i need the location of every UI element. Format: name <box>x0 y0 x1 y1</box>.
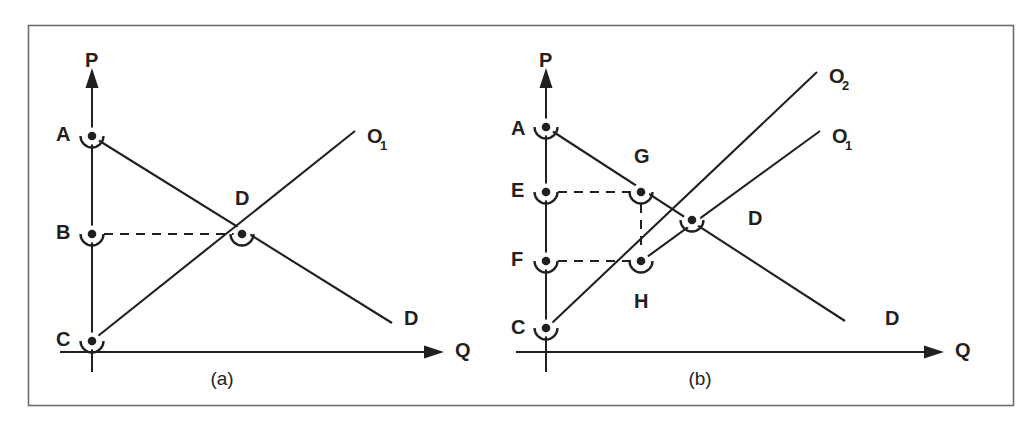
panel-b-point-a: A <box>511 117 558 139</box>
panel-a-demand-curve-d-label: D <box>404 307 418 329</box>
panel-a-point-d-label: D <box>235 187 249 209</box>
panel-b-axis-label-p: P <box>539 49 552 71</box>
panel-a-point-a: A <box>56 123 104 147</box>
panel-b-point-c-label: C <box>511 316 525 338</box>
panel-b-supply-curve-o2-subscript: 2 <box>842 78 849 93</box>
panel-b-point-d: D <box>681 207 763 231</box>
panel-a-point-a-dot <box>88 132 97 141</box>
panel-b-point-c: C <box>511 316 558 339</box>
panel-b-point-e-label: E <box>511 179 524 201</box>
panel-b-supply-curve-o1-subscript: 1 <box>845 138 852 153</box>
panel-b-point-h: H <box>630 253 653 313</box>
figure-container: P Q O 1 D A <box>0 0 1034 430</box>
panel-a-point-b-dot <box>88 230 97 239</box>
panel-a-point-b: B <box>56 221 104 245</box>
panel-a-point-c-dot <box>88 337 97 346</box>
panel-a: P Q O 1 D A <box>56 49 471 389</box>
panel-b-point-d-label: D <box>748 207 762 229</box>
panel-b-demand-curve-d <box>552 131 845 321</box>
panel-b-axis-label-q: Q <box>955 339 971 361</box>
panel-b-point-f-label: F <box>511 248 523 270</box>
panel-a-point-b-label: B <box>56 221 70 243</box>
figure-border <box>29 26 1014 406</box>
panel-b-point-g-dot <box>637 188 646 197</box>
panel-a-point-d-dot <box>238 230 247 239</box>
panel-b-point-f-dot <box>542 257 551 266</box>
panel-b-point-e-dot <box>542 188 551 197</box>
panel-b-supply-curve-o2 <box>552 72 817 323</box>
panel-a-axis-label-p: P <box>85 49 98 71</box>
panel-b-point-g-label: G <box>634 145 650 167</box>
panel-a-caption: (a) <box>210 368 233 389</box>
panel-a-point-d: D <box>231 187 254 245</box>
panel-a-point-c: C <box>56 328 104 352</box>
panel-b-point-h-label: H <box>634 290 648 312</box>
panel-b-point-a-label: A <box>511 117 525 139</box>
panel-b-point-c-dot <box>542 324 551 333</box>
panel-b-point-a-dot <box>542 123 551 132</box>
panel-b-quantity-axis-arrowhead <box>924 346 944 359</box>
panel-b-point-e: E <box>511 179 558 203</box>
panel-a-point-a-label: A <box>56 123 70 145</box>
panel-a-quantity-axis-arrowhead <box>424 346 444 359</box>
panel-a-supply-curve-o1-subscript: 1 <box>380 138 387 153</box>
panel-b-demand-curve-d-label: D <box>885 307 899 329</box>
panel-a-point-c-label: C <box>56 328 70 350</box>
panel-b-point-d-dot <box>688 216 697 225</box>
panel-b-point-f: F <box>511 248 558 272</box>
panel-a-axis-label-q: Q <box>455 339 471 361</box>
panel-b-point-h-dot <box>637 257 646 266</box>
panel-b-caption: (b) <box>688 368 711 389</box>
panel-b: P Q O 2 O 1 D A <box>511 49 971 389</box>
economics-supply-demand-diagram: P Q O 1 D A <box>0 0 1034 430</box>
